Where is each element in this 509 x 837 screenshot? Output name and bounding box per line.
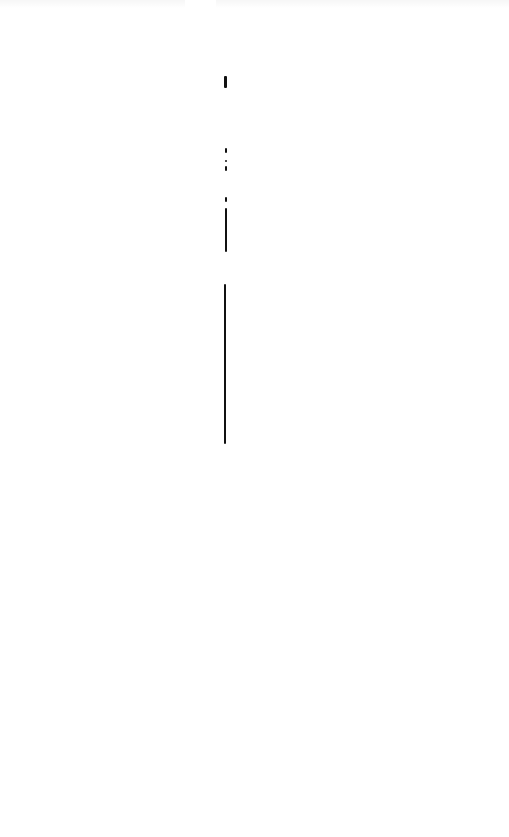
document-page bbox=[0, 0, 509, 837]
ink-mark-dot-2 bbox=[225, 160, 227, 162]
ink-mark-line-2 bbox=[224, 284, 226, 444]
ink-mark-dot-4 bbox=[225, 197, 227, 202]
bleed-through-left bbox=[0, 0, 185, 8]
ink-mark-line-1 bbox=[225, 208, 227, 252]
bleed-through-right bbox=[216, 0, 509, 8]
ink-mark-dot-3 bbox=[225, 166, 227, 171]
ink-mark-dot-1 bbox=[225, 148, 227, 153]
ink-mark-dash-1 bbox=[224, 76, 227, 88]
